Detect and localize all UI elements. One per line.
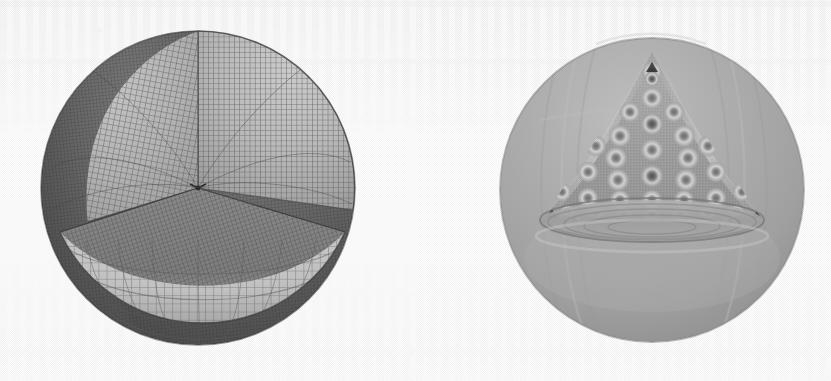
sphere-octant-mesh-graphic <box>0 0 415 381</box>
sphere-interior-field-graphic <box>415 0 831 381</box>
cut-face-upper-right <box>198 31 355 210</box>
right-figure-panel <box>415 0 831 381</box>
left-figure-panel <box>0 0 415 381</box>
figure-page <box>0 0 831 381</box>
